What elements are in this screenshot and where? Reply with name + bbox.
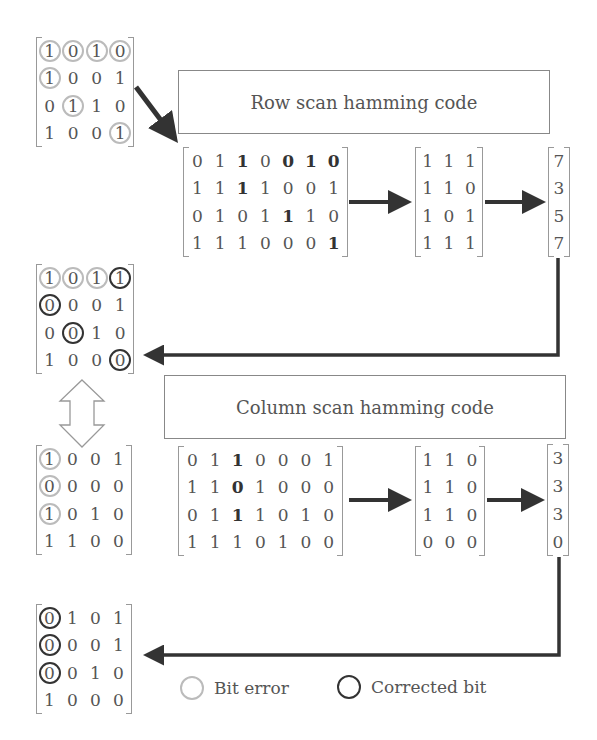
transpose-double-arrow: [60, 380, 104, 447]
legend-bit-error: Bit error: [180, 676, 289, 700]
bit-error-ring-icon: [180, 676, 204, 700]
arrows-layer: [0, 0, 597, 740]
corrected-bit-ring-icon: [337, 675, 361, 699]
diagonal-arrow: [136, 87, 172, 135]
column-return-path: [150, 557, 559, 655]
legend-corrected-bit-label: Corrected bit: [371, 677, 486, 697]
legend-corrected-bit: Corrected bit: [337, 675, 486, 699]
legend-bit-error-label: Bit error: [214, 678, 289, 698]
row-return-path: [150, 258, 558, 355]
